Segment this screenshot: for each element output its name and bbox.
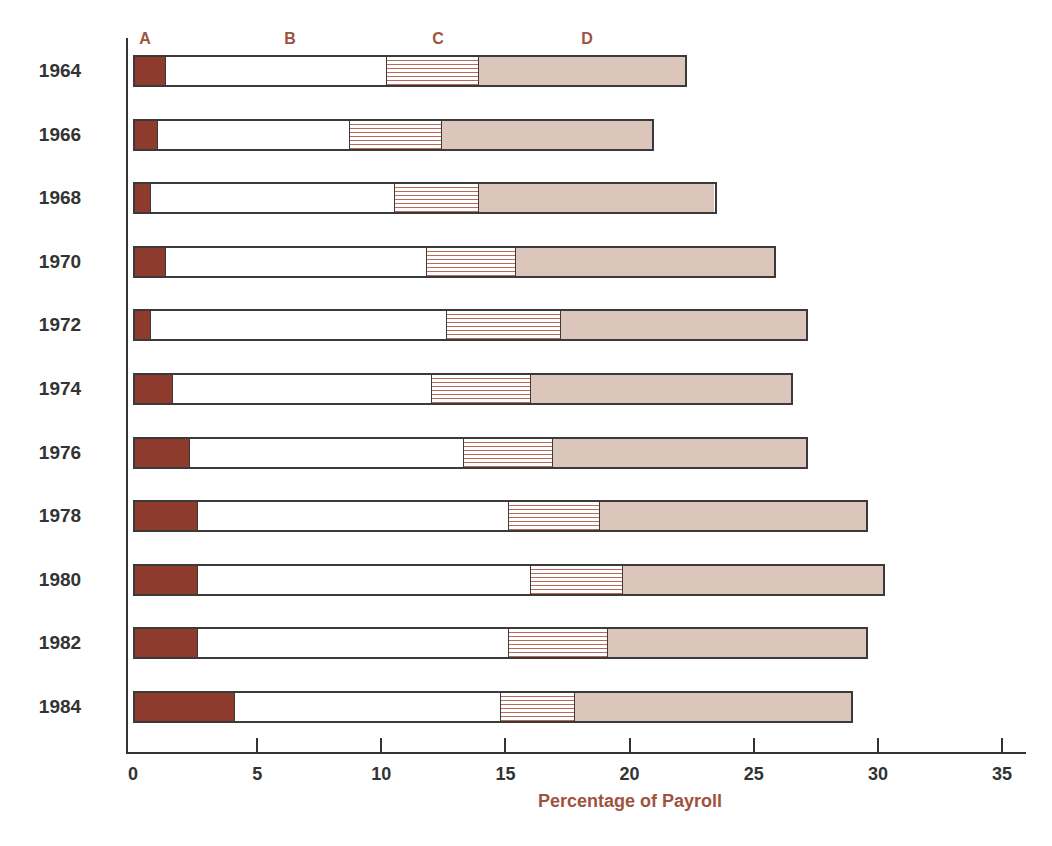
segment-b	[189, 439, 463, 467]
year-label: 1964	[20, 60, 100, 82]
segment-a	[135, 566, 197, 594]
bar-1964	[133, 55, 687, 87]
x-tick	[256, 738, 258, 753]
bar-1982	[133, 627, 868, 659]
segment-b	[197, 629, 508, 657]
segment-b	[150, 184, 394, 212]
segment-letter-c: C	[432, 30, 444, 48]
x-tick-label: 15	[495, 764, 515, 785]
bar-1980	[133, 564, 885, 596]
segment-c	[386, 57, 477, 85]
segment-c	[431, 375, 530, 403]
segment-a	[135, 57, 165, 85]
x-tick	[1001, 738, 1003, 753]
segment-a	[135, 248, 165, 276]
bar-1984	[133, 691, 853, 723]
year-label: 1970	[20, 251, 100, 273]
segment-c	[394, 184, 478, 212]
x-tick	[504, 738, 506, 753]
year-label: 1978	[20, 505, 100, 527]
segment-c	[349, 121, 440, 149]
segment-a	[135, 311, 150, 339]
segment-d	[560, 311, 807, 339]
segment-a	[135, 629, 197, 657]
bar-1974	[133, 373, 793, 405]
segment-c	[530, 566, 621, 594]
year-label: 1982	[20, 632, 100, 654]
segment-letter-b: B	[284, 30, 296, 48]
x-tick	[380, 738, 382, 753]
segment-d	[552, 439, 806, 467]
x-tick-label: 0	[128, 764, 138, 785]
segment-b	[165, 248, 427, 276]
segment-b	[150, 311, 446, 339]
segment-d	[478, 57, 685, 85]
segment-d	[478, 184, 715, 212]
segment-c	[426, 248, 515, 276]
segment-b	[234, 693, 501, 721]
x-tick-label: 25	[744, 764, 764, 785]
segment-d	[515, 248, 774, 276]
x-tick	[877, 738, 879, 753]
year-label: 1968	[20, 187, 100, 209]
segment-a	[135, 375, 172, 403]
segment-b	[197, 566, 530, 594]
bar-1968	[133, 182, 717, 214]
segment-letter-d: D	[581, 30, 593, 48]
segment-d	[441, 121, 653, 149]
x-tick-label: 30	[868, 764, 888, 785]
x-tick-label: 20	[620, 764, 640, 785]
year-label: 1984	[20, 696, 100, 718]
x-tick	[629, 738, 631, 753]
stacked-bar-chart: ABCD 19641966196819701972197419761978198…	[0, 0, 1052, 846]
year-label: 1976	[20, 442, 100, 464]
segment-d	[599, 502, 866, 530]
bar-1966	[133, 119, 654, 151]
segment-d	[607, 629, 866, 657]
bar-1970	[133, 246, 776, 278]
x-axis-line	[126, 752, 1026, 754]
x-tick	[753, 738, 755, 753]
segment-c	[508, 502, 599, 530]
segment-a	[135, 184, 150, 212]
segment-d	[574, 693, 851, 721]
segment-c	[500, 693, 574, 721]
segment-a	[135, 439, 189, 467]
segment-a	[135, 693, 234, 721]
segment-a	[135, 121, 157, 149]
year-label: 1980	[20, 569, 100, 591]
y-axis-line	[126, 38, 128, 754]
segment-c	[463, 439, 552, 467]
segment-letter-a: A	[139, 30, 151, 48]
segment-b	[165, 57, 387, 85]
bar-1976	[133, 437, 808, 469]
x-tick-label: 10	[371, 764, 391, 785]
year-label: 1972	[20, 314, 100, 336]
segment-d	[530, 375, 792, 403]
bar-1978	[133, 500, 868, 532]
segment-b	[157, 121, 349, 149]
segment-b	[172, 375, 431, 403]
segment-d	[622, 566, 884, 594]
segment-a	[135, 502, 197, 530]
segment-b	[197, 502, 508, 530]
x-axis-title: Percentage of Payroll	[538, 791, 722, 812]
segment-c	[446, 311, 560, 339]
bar-1972	[133, 309, 808, 341]
year-label: 1966	[20, 124, 100, 146]
x-tick-label: 5	[252, 764, 262, 785]
x-tick-label: 35	[992, 764, 1012, 785]
year-label: 1974	[20, 378, 100, 400]
segment-c	[508, 629, 607, 657]
